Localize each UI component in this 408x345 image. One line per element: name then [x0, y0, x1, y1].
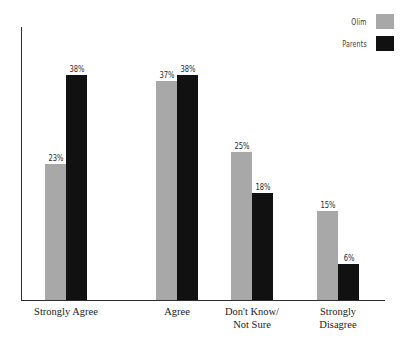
legend-item-olim: Olim [348, 14, 394, 29]
plot-area: 23%38%37%38%25%18%15%6% Strongly AgreeAg… [0, 0, 408, 345]
legend-label-parents: Parents [343, 39, 367, 49]
bar-value-label: 15% [320, 200, 335, 210]
legend-swatch-olim [376, 14, 394, 29]
bar-rect [317, 211, 338, 300]
bar-value-label: 38% [69, 64, 84, 74]
bar-value-label: 18% [255, 182, 270, 192]
bar-parents-3: 6% [338, 264, 359, 300]
bar-rect [338, 264, 359, 300]
bar-parents-1: 38% [177, 75, 198, 300]
bar-rect [252, 193, 273, 300]
bar-rect [156, 81, 177, 300]
x-axis-line [21, 300, 385, 301]
bar-value-label: 25% [234, 141, 249, 151]
legend-label-olim: Olim [352, 17, 367, 27]
legend-swatch-parents [376, 36, 394, 51]
bar-value-label: 23% [48, 153, 63, 163]
category-label-0: Strongly Agree [6, 306, 126, 319]
bar-value-label: 37% [159, 70, 174, 80]
bar-value-label: 38% [180, 64, 195, 74]
bar-parents-2: 18% [252, 193, 273, 300]
bar-parents-0: 38% [66, 75, 87, 300]
bar-olim-2: 25% [231, 152, 252, 300]
bar-rect [45, 164, 66, 300]
bar-rect [177, 75, 198, 300]
bar-rect [231, 152, 252, 300]
bar-olim-1: 37% [156, 81, 177, 300]
category-label-3: Strongly Disagree [278, 306, 398, 331]
bar-chart: 23%38%37%38%25%18%15%6% Strongly AgreeAg… [0, 0, 408, 345]
bar-value-label: 6% [343, 253, 354, 263]
bar-olim-0: 23% [45, 164, 66, 300]
bar-rect [66, 75, 87, 300]
y-axis-line [21, 27, 22, 301]
bar-olim-3: 15% [317, 211, 338, 300]
chart-legend: Olim Parents [337, 14, 394, 51]
legend-item-parents: Parents [337, 36, 394, 51]
